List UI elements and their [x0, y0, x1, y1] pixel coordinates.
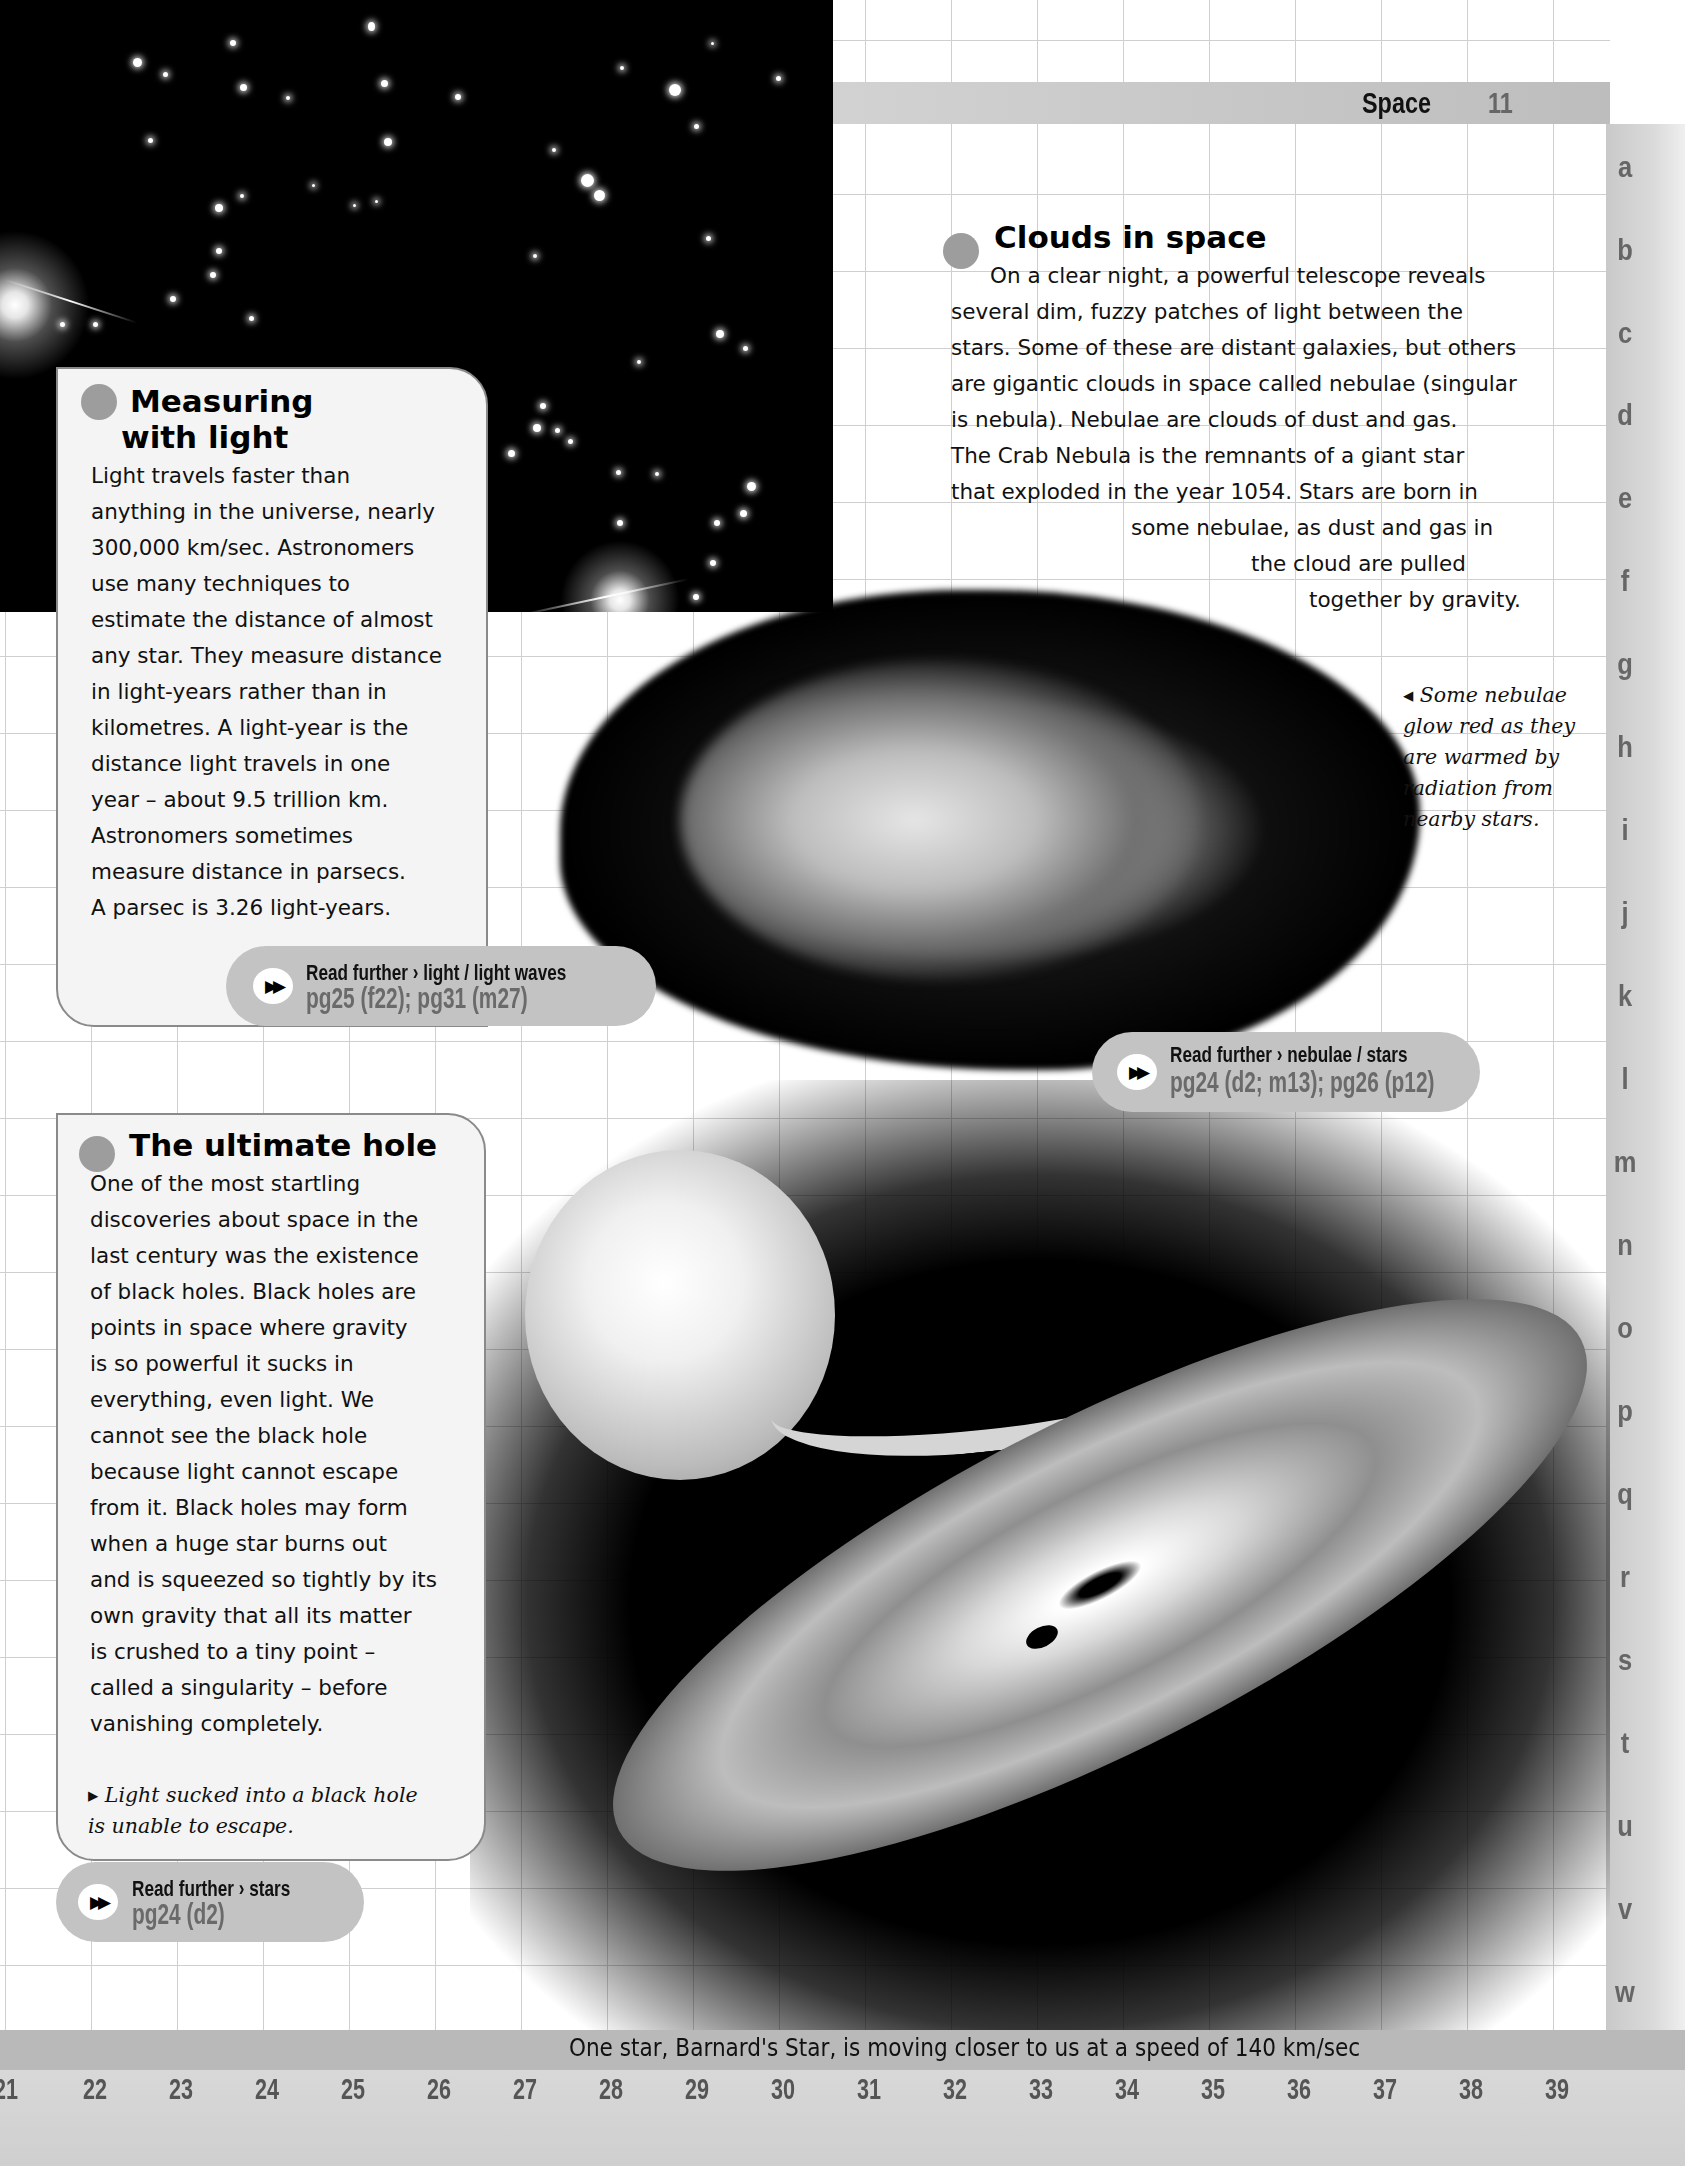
row-letter: v [1609, 1892, 1641, 1926]
column-number: 24 [255, 2072, 279, 2106]
row-letter: e [1609, 481, 1641, 515]
row-letter: w [1609, 1975, 1641, 2009]
row-letter: u [1609, 1809, 1641, 1843]
read-further-pages: pg24 (d2; m13); pg26 (p12) [1170, 1066, 1435, 1099]
column-number: 31 [857, 2072, 881, 2106]
row-letter: n [1609, 1228, 1641, 1262]
row-letter: r [1609, 1560, 1641, 1594]
row-letter-index: a b c d e f g h i j k l m n o p q r s t … [1606, 124, 1685, 2030]
row-letter: b [1609, 233, 1641, 267]
column-number-band [0, 2070, 1685, 2166]
page-number: 11 [1488, 86, 1513, 120]
fast-forward-icon: ▶▶ [78, 1884, 118, 1920]
measuring-heading-line1: Measuring [130, 383, 314, 419]
footer-fact-text: One star, Barnard's Star, is moving clos… [0, 2034, 1360, 2062]
section-bullet-icon [943, 233, 979, 269]
row-letter: s [1609, 1643, 1641, 1677]
ultimate-hole-heading: The ultimate hole [129, 1127, 437, 1163]
column-number: 28 [599, 2072, 623, 2106]
column-number: 32 [943, 2072, 967, 2106]
row-letter: o [1609, 1311, 1641, 1345]
row-letter: a [1609, 150, 1641, 184]
read-further-nebulae-link[interactable]: ▶▶ Read further › nebulae / stars pg24 (… [1092, 1032, 1480, 1112]
column-number: 34 [1115, 2072, 1139, 2106]
read-further-light-link[interactable]: ▶▶ Read further › light / light waves pg… [226, 946, 656, 1026]
row-letter: c [1609, 316, 1641, 350]
column-number: 25 [341, 2072, 365, 2106]
column-number: 30 [771, 2072, 795, 2106]
measuring-heading-line2: with light [121, 419, 288, 455]
column-number: 27 [513, 2072, 537, 2106]
row-letter: p [1609, 1394, 1641, 1428]
black-hole-caption: ▸ Light sucked into a black hole is unab… [88, 1780, 418, 1842]
column-number: 26 [427, 2072, 451, 2106]
row-letter: j [1609, 896, 1641, 930]
row-letter: k [1609, 979, 1641, 1013]
column-number: 35 [1201, 2072, 1225, 2106]
nebula-core [680, 660, 1200, 980]
column-number: 21 [0, 2072, 18, 2106]
row-letter: t [1609, 1726, 1641, 1760]
read-further-stars-link[interactable]: ▶▶ Read further › stars pg24 (d2) [56, 1862, 364, 1942]
nebula-caption: ◂ Some nebulae glow red as they are warm… [1403, 680, 1575, 835]
row-letter: g [1609, 647, 1641, 681]
read-further-topic: Read further › nebulae / stars [1170, 1042, 1407, 1068]
row-letter: i [1609, 813, 1641, 847]
row-letter: d [1609, 398, 1641, 432]
fast-forward-icon: ▶▶ [253, 968, 293, 1004]
row-letter: h [1609, 730, 1641, 764]
fast-forward-icon: ▶▶ [1117, 1054, 1157, 1090]
row-letter: f [1609, 564, 1641, 598]
section-bullet-icon [81, 384, 117, 420]
column-number: 33 [1029, 2072, 1053, 2106]
column-number: 29 [685, 2072, 709, 2106]
read-further-pages: pg24 (d2) [132, 1898, 225, 1931]
column-number: 23 [169, 2072, 193, 2106]
column-number: 38 [1459, 2072, 1483, 2106]
read-further-pages: pg25 (f22); pg31 (m27) [306, 982, 528, 1015]
column-number: 36 [1287, 2072, 1311, 2106]
ultimate-hole-body: One of the most startling discoveries ab… [90, 1166, 437, 1742]
clouds-heading: Clouds in space [994, 219, 1267, 255]
section-title: Space [1362, 86, 1431, 120]
measuring-body: Light travels faster than anything in th… [91, 458, 442, 926]
column-number: 37 [1373, 2072, 1397, 2106]
column-number: 22 [83, 2072, 107, 2106]
row-letter: m [1609, 1145, 1641, 1179]
column-number: 39 [1545, 2072, 1569, 2106]
row-letter: l [1609, 1062, 1641, 1096]
row-letter: q [1609, 1477, 1641, 1511]
